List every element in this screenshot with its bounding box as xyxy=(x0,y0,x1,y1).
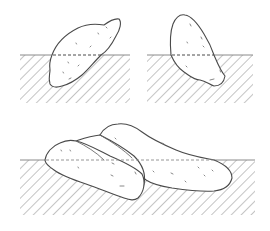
panel-bottom xyxy=(20,124,255,215)
stone-embedding-diagram xyxy=(0,0,270,231)
panel-top-right xyxy=(147,15,253,103)
panel-top-left xyxy=(20,19,130,103)
diagram-svg xyxy=(0,0,270,231)
